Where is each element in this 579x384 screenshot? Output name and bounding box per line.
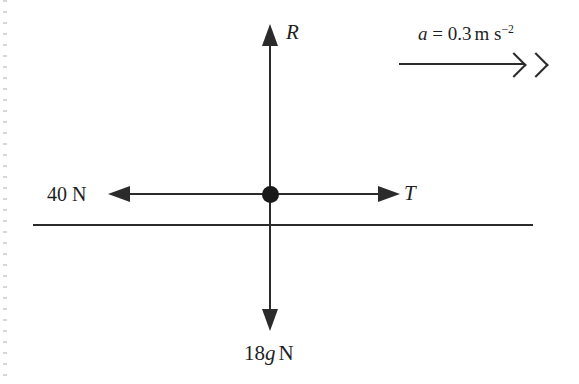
acceleration-symbol: a	[418, 23, 428, 44]
arrow-left-icon	[108, 186, 130, 202]
vertical-force-shaft	[269, 30, 271, 328]
tension-label: T	[404, 183, 416, 204]
acceleration-unit-base: m s	[474, 23, 501, 44]
acceleration-value: 0.3	[448, 23, 472, 44]
force-diagram-canvas: R T 40 N 18gN a = 0.3m s−2	[0, 0, 579, 384]
horizontal-force-shaft	[116, 193, 390, 195]
acceleration-equals: =	[432, 23, 443, 44]
ground-line-icon	[33, 224, 533, 226]
arrow-down-icon	[262, 309, 278, 331]
acceleration-unit-exponent: −2	[501, 23, 514, 36]
weight-label: 18gN	[244, 343, 294, 364]
arrow-right-icon	[378, 186, 400, 202]
normal-reaction-label: R	[286, 22, 299, 43]
double-chevron-right-icon-second	[523, 52, 548, 77]
applied-force-label: 40 N	[47, 184, 86, 204]
arrow-up-icon	[262, 24, 278, 46]
weight-number: 18	[244, 341, 265, 365]
weight-unit: N	[279, 341, 294, 365]
acceleration-label: a = 0.3m s−2	[418, 24, 514, 43]
junction-dot-icon	[262, 186, 279, 203]
weight-gravity-symbol: g	[265, 341, 276, 365]
page-margin-dots	[3, 0, 7, 384]
